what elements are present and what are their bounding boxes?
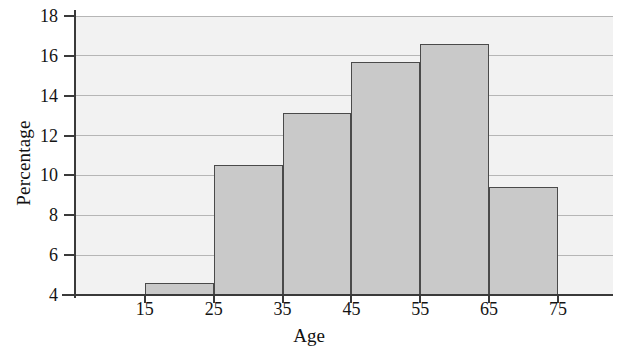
y-tick-label: 18 bbox=[24, 7, 58, 25]
y-tick-label-wrap: 4 bbox=[18, 286, 58, 304]
x-axis-title: Age bbox=[0, 325, 618, 347]
y-tick-label: 14 bbox=[24, 87, 58, 105]
y-tick-label: 12 bbox=[24, 127, 58, 145]
gridline-y-16 bbox=[76, 55, 613, 56]
plot-area bbox=[76, 16, 613, 295]
y-tick-label-wrap: 10 bbox=[18, 166, 58, 184]
y-tick-label: 6 bbox=[24, 246, 58, 264]
y-tick-label: 10 bbox=[24, 166, 58, 184]
y-tick-mark bbox=[64, 135, 76, 137]
y-tick-mark bbox=[64, 55, 76, 57]
y-tick-label: 4 bbox=[24, 286, 58, 304]
histogram-bar bbox=[214, 165, 283, 295]
histogram-bar bbox=[351, 62, 420, 295]
y-tick-label-wrap: 8 bbox=[18, 206, 58, 224]
histogram-figure: Percentage 468101214161815253545556575 A… bbox=[0, 0, 618, 357]
y-tick-mark bbox=[64, 254, 76, 256]
x-tick-label: 65 bbox=[469, 300, 509, 318]
x-tick-label: 35 bbox=[263, 300, 303, 318]
y-tick-label-wrap: 18 bbox=[18, 7, 58, 25]
y-tick-mark bbox=[64, 214, 76, 216]
y-tick-label-wrap: 16 bbox=[18, 47, 58, 65]
x-tick-label: 55 bbox=[400, 300, 440, 318]
y-tick-mark bbox=[64, 174, 76, 176]
y-tick-label: 16 bbox=[24, 47, 58, 65]
y-tick-mark bbox=[64, 95, 76, 97]
gridline-y-18 bbox=[76, 16, 613, 17]
y-tick-mark bbox=[64, 294, 76, 296]
x-tick-label: 15 bbox=[125, 300, 165, 318]
y-tick-label: 8 bbox=[24, 206, 58, 224]
histogram-bar bbox=[420, 44, 489, 295]
x-tick-label: 45 bbox=[331, 300, 371, 318]
x-tick-label: 75 bbox=[538, 300, 578, 318]
x-tick-label: 25 bbox=[194, 300, 234, 318]
y-tick-label-wrap: 14 bbox=[18, 87, 58, 105]
y-tick-label-wrap: 12 bbox=[18, 127, 58, 145]
gridline-y-14 bbox=[76, 95, 613, 96]
y-tick-mark bbox=[64, 15, 76, 17]
y-tick-label-wrap: 6 bbox=[18, 246, 58, 264]
histogram-bar bbox=[489, 187, 558, 295]
histogram-bar bbox=[283, 113, 352, 295]
